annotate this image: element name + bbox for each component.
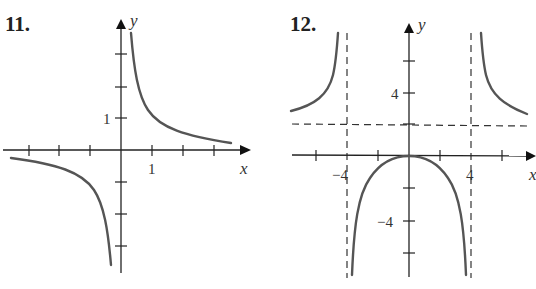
y-axis-label: y [416,15,426,34]
x-tick-label-1: 1 [148,161,156,177]
x-axis-label: x [239,159,248,178]
graph-11: 11. y x 1 1 [0,0,270,289]
graph-11-plot: y x 1 1 [0,0,270,289]
graph-12-plot: y x −4 4 4 −4 [270,0,536,289]
x-axis-arrow-icon [240,145,251,155]
y-axis-arrow-icon [404,23,414,33]
x-tick-label-pos4: 4 [466,167,474,183]
x-axis-arrow-icon [526,151,536,161]
x-tick-label-neg4: −4 [332,167,348,183]
curve-upper-right-branch [481,33,527,114]
y-tick-label-1: 1 [103,111,111,127]
curve-right-branch [131,33,231,143]
y-axis-label: y [128,11,138,30]
curve-left-branch [11,158,111,265]
curve-upper-left-branch [291,33,338,111]
graph-12: 12. y x −4 [270,0,536,289]
y-tick-label-neg4: −4 [377,214,393,230]
y-axis-arrow-icon [116,19,126,29]
x-axis-label: x [528,165,536,184]
y-tick-label-pos4: 4 [391,86,399,102]
